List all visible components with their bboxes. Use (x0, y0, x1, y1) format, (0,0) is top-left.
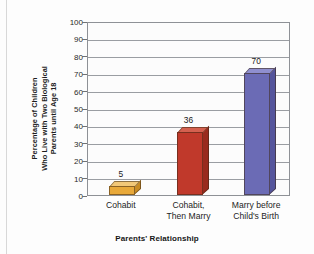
gridline-90 (88, 40, 289, 41)
bar-side-face-2 (269, 67, 276, 195)
y-tick-label-70: 70 (57, 70, 83, 79)
scan-artifact-line (6, 0, 7, 254)
bar-front-face-0 (109, 186, 135, 195)
y-tick-label-100: 100 (57, 18, 83, 27)
bar-1[interactable] (177, 132, 203, 195)
bar-chart-figure: Percentage of Children Who Live with Two… (0, 0, 314, 254)
y-axis-title-line-2: Who Live with Two Biological (39, 31, 49, 205)
x-tick-label-2: Marry beforeChild's Birth (211, 200, 301, 221)
bar-front-face-1 (177, 132, 203, 195)
x-tick-label-2-line-1: Child's Birth (211, 211, 301, 222)
y-axis-title: Percentage of Children Who Live with Two… (30, 31, 59, 205)
bar-value-label-1: 36 (169, 115, 209, 125)
bar-2[interactable] (244, 73, 270, 195)
y-tick-label-50: 50 (57, 105, 83, 114)
bar-0[interactable] (109, 186, 135, 195)
bar-side-face-1 (202, 126, 209, 195)
y-tick-label-90: 90 (57, 35, 83, 44)
bar-value-label-2: 70 (236, 56, 276, 66)
y-tick-label-80: 80 (57, 52, 83, 61)
y-tick-label-60: 60 (57, 87, 83, 96)
bar-value-label-0: 5 (101, 169, 141, 179)
x-tick-label-2-line-0: Marry before (211, 200, 301, 211)
y-tick-label-10: 10 (57, 174, 83, 183)
x-axis-title: Parents' Relationship (0, 234, 314, 243)
y-tick-label-30: 30 (57, 139, 83, 148)
y-axis-title-line-1: Percentage of Children (30, 31, 40, 205)
y-tick-label-20: 20 (57, 157, 83, 166)
y-tick-label-40: 40 (57, 122, 83, 131)
bar-front-face-2 (244, 73, 270, 195)
